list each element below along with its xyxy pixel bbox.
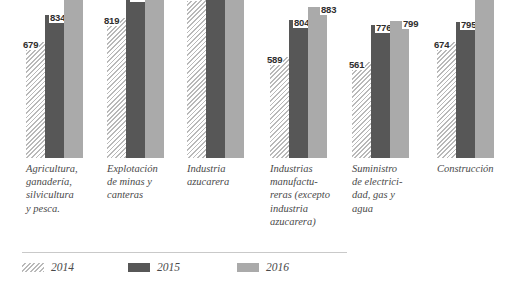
category-label: Industriaazucarera	[187, 162, 261, 188]
category-label-line: canteras	[107, 188, 181, 201]
bar-value-label: 679	[22, 39, 39, 50]
category-label: Agricultura,ganadería,silviculturay pesc…	[26, 162, 100, 215]
legend-swatch-2016	[237, 263, 259, 272]
legend-divider	[22, 252, 132, 253]
bar-value-label: 674	[433, 39, 450, 50]
bar-value-label: 963	[183, 0, 200, 1]
bar-2016	[225, 0, 244, 158]
category-label-line: ganadería,	[26, 175, 100, 188]
bar-group-bars: 674795985	[437, 0, 494, 158]
legend-item-2014[interactable]: 2014	[22, 252, 74, 273]
bar-2015	[371, 25, 390, 158]
bar-value-label: 561	[348, 59, 365, 70]
bar-2015	[289, 20, 308, 158]
category-label-line: industria	[270, 202, 344, 215]
bar-group-bars: 8199581 218	[107, 0, 164, 158]
category-label-line: Industria	[187, 162, 261, 175]
legend-label-2016: 2016	[266, 261, 289, 273]
bar-group-bars: 589804883	[270, 0, 327, 158]
bar-2016	[64, 0, 83, 158]
category-label: Explotaciónde minas ycanteras	[107, 162, 181, 202]
bar-group: 674795985	[437, 0, 494, 158]
bar-value-label: 819	[103, 15, 120, 26]
bar-2015	[126, 0, 145, 158]
category-label-line: agua	[352, 202, 426, 215]
bar-group-bars: 561776799	[352, 0, 409, 158]
bar-value-label: 799	[402, 18, 419, 29]
category-label-line: de electrici-	[352, 175, 426, 188]
legend-item-2016[interactable]: 2016	[237, 252, 289, 273]
category-label-line: Agricultura,	[26, 162, 100, 175]
bar-2015	[45, 15, 64, 158]
category-label-line: manufactu-	[270, 175, 344, 188]
category-axis: Agricultura,ganadería,silviculturay pesc…	[0, 162, 530, 247]
bar-group: 589804883	[270, 0, 327, 158]
category-label-line: Explotación	[107, 162, 181, 175]
category-label: Suministrode electrici-dad, gas yagua	[352, 162, 426, 215]
legend-swatch-2014	[22, 263, 44, 272]
bar-value-label: 883	[320, 4, 337, 15]
bar-2014	[26, 42, 45, 158]
bar-2016	[308, 7, 327, 158]
chart-legend: 201420152016	[0, 252, 530, 290]
bar-group: 9631 1471 246	[187, 0, 244, 158]
category-label-line: Industrias	[270, 162, 344, 175]
category-label-line: Construcción	[437, 162, 511, 175]
bar-chart: 6798349918199581 2189631 1471 2465898048…	[0, 0, 530, 290]
category-label-line: silvicultura	[26, 188, 100, 201]
legend-label-2014: 2014	[51, 261, 74, 273]
bar-2014	[352, 62, 371, 158]
legend-divider	[128, 252, 238, 253]
bar-2014	[107, 18, 126, 158]
category-label-line: reras (excepto	[270, 188, 344, 201]
bar-2016	[390, 21, 409, 158]
category-label-line: azucarera	[187, 175, 261, 188]
bar-2015	[206, 0, 225, 158]
bar-value-label: 589	[266, 54, 283, 65]
category-label-line: de minas y	[107, 175, 181, 188]
legend-label-2015: 2015	[157, 261, 180, 273]
bar-2014	[270, 57, 289, 158]
bar-group-bars: 679834991	[26, 0, 83, 158]
category-label-line: Suministro	[352, 162, 426, 175]
bar-2016	[475, 0, 494, 158]
plot-area: 6798349918199581 2189631 1471 2465898048…	[0, 0, 530, 158]
legend-divider	[237, 252, 347, 253]
bar-2016	[145, 0, 164, 158]
bar-2015	[456, 22, 475, 158]
bar-group: 561776799	[352, 0, 409, 158]
bar-group: 8199581 218	[107, 0, 164, 158]
bar-2014	[187, 0, 206, 158]
category-label-line: dad, gas y	[352, 188, 426, 201]
category-label: Construcción	[437, 162, 511, 175]
legend-item-2015[interactable]: 2015	[128, 252, 180, 273]
bar-group-bars: 9631 1471 246	[187, 0, 244, 158]
category-label: Industriasmanufactu-reras (exceptoindust…	[270, 162, 344, 228]
category-label-line: y pesca.	[26, 202, 100, 215]
category-label-line: azucarera)	[270, 215, 344, 228]
bar-group: 679834991	[26, 0, 83, 158]
legend-swatch-2015	[128, 263, 150, 272]
bar-2014	[437, 42, 456, 158]
